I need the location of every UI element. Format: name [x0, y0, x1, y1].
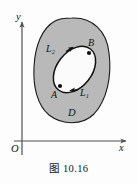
arc-L1-label: L₁	[79, 87, 89, 98]
origin-label: O	[11, 143, 19, 154]
x-axis-label: x	[118, 142, 124, 153]
figure-container: y x O A B L₁ L₂ D 图 10.16	[0, 0, 138, 184]
arc-L1-arrow	[72, 90, 78, 91]
point-B-dot	[87, 51, 91, 55]
point-A-dot	[58, 84, 62, 88]
arc-L2-label: L₂	[45, 43, 56, 54]
figure-caption: 图 10.16	[0, 160, 138, 175]
figure-diagram: y x O A B L₁ L₂ D	[0, 0, 138, 184]
point-B-label: B	[88, 37, 94, 48]
region-D-label: D	[67, 107, 76, 118]
point-A-label: A	[50, 89, 58, 100]
y-axis-label: y	[15, 11, 21, 22]
